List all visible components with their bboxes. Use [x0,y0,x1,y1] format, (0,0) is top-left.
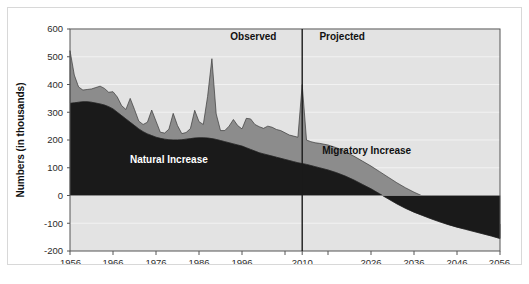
chart-frame: -200-10001002003004005006001956196619761… [7,7,522,265]
population-change-area-chart: -200-10001002003004005006001956196619761… [8,8,521,264]
ytick-label: 500 [47,51,63,62]
xtick-label: 2036 [403,257,424,264]
annotation-natural-increase: Natural Increase [130,154,208,165]
ytick-label: 600 [47,23,63,34]
ytick-label: 0 [58,190,63,201]
xtick-label: 2046 [446,257,467,264]
ytick-label: 100 [47,162,63,173]
xtick-label: 1996 [231,257,252,264]
xtick-label: 1976 [145,257,166,264]
xtick-label: 2056 [489,257,510,264]
annotation-migratory-increase: Migratory Increase [322,145,411,156]
ytick-label: 400 [47,79,63,90]
xtick-label: 1966 [102,257,123,264]
ytick-label: -200 [44,245,63,256]
annotation-projected: Projected [319,31,365,42]
ytick-label: 200 [47,134,63,145]
xtick-label: 2010 [292,257,313,264]
ytick-label: 300 [47,107,63,118]
xtick-label: 1956 [60,257,81,264]
y-axis-title: Numbers (in thousands) [15,82,26,197]
ytick-label: -100 [44,218,63,229]
annotation-observed: Observed [230,31,276,42]
xtick-label: 1986 [188,257,209,264]
figure-container: -200-10001002003004005006001956196619761… [0,0,529,284]
xtick-label: 2026 [360,257,381,264]
